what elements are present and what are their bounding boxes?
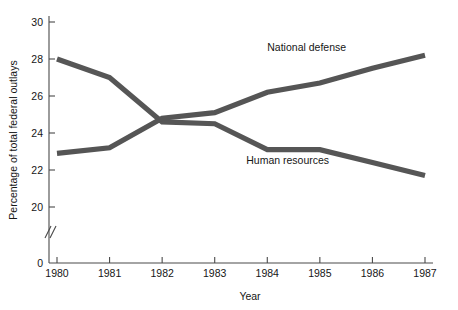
x-tick-label: 1986 xyxy=(361,267,385,279)
line-chart: 0202224262830 19801981198219831984198519… xyxy=(0,0,458,310)
y-tick-label: 0 xyxy=(37,257,43,269)
y-axis-break-icon xyxy=(45,226,56,238)
y-tick-label: 26 xyxy=(31,90,43,102)
x-tick-label: 1980 xyxy=(45,267,69,279)
data-line-human-resources xyxy=(57,59,425,176)
x-tick-label: 1983 xyxy=(203,267,227,279)
axis-break-slash-icon xyxy=(45,226,51,238)
series-label-human-resources: Human resources xyxy=(246,154,329,166)
y-tick-label: 28 xyxy=(31,53,43,65)
x-tick-label: 1984 xyxy=(256,267,280,279)
x-tick-label: 1982 xyxy=(150,267,174,279)
x-tick-label: 1985 xyxy=(308,267,332,279)
y-axis-tick-group: 0202224262830 xyxy=(31,16,55,269)
x-axis-title: Year xyxy=(239,290,261,302)
y-axis-title: Percentage of total federal outlays xyxy=(7,60,19,219)
y-tick-label: 24 xyxy=(31,127,43,139)
y-tick-label: 20 xyxy=(31,201,43,213)
x-tick-label: 1981 xyxy=(98,267,122,279)
x-tick-label: 1987 xyxy=(413,267,437,279)
axis-break-slash-icon xyxy=(50,226,56,238)
y-tick-label: 22 xyxy=(31,164,43,176)
x-axis-tick-group: 19801981198219831984198519861987 xyxy=(45,257,437,279)
chart-container: 0202224262830 19801981198219831984198519… xyxy=(0,0,458,310)
data-series-group xyxy=(57,55,425,175)
series-label-national-defense: National defense xyxy=(267,41,346,53)
y-tick-label: 30 xyxy=(31,16,43,28)
